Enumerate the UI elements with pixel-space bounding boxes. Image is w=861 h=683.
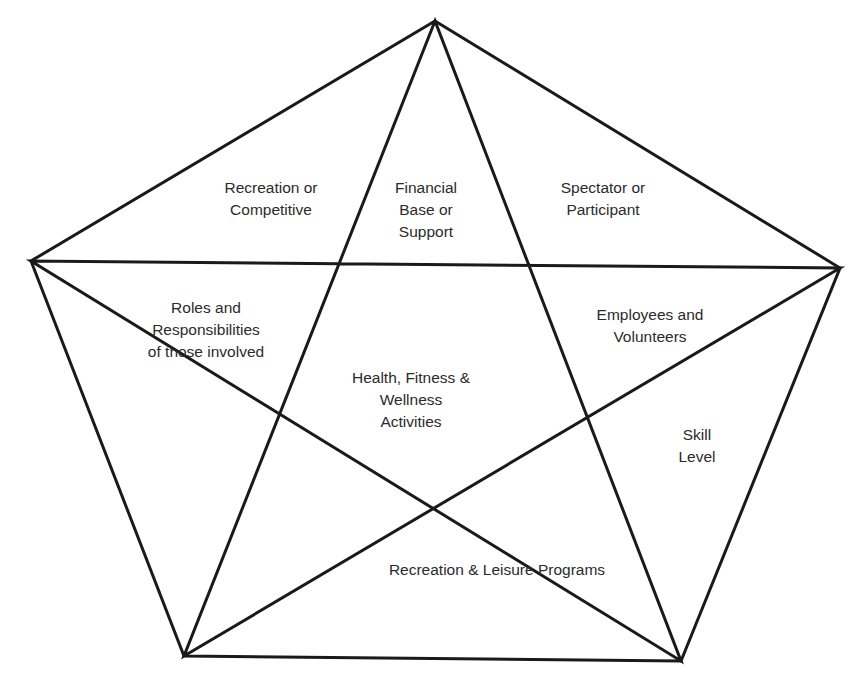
- label-recreation-or-competitive: Recreation orCompetitive: [224, 177, 317, 221]
- label-line: Volunteers: [597, 326, 704, 348]
- label-line: of those involved: [148, 341, 264, 363]
- label-employees-and-volunteers: Employees andVolunteers: [597, 304, 704, 348]
- label-line: Responsibilities: [148, 319, 264, 341]
- label-skill-level: SkillLevel: [678, 424, 715, 468]
- label-line: Participant: [561, 199, 645, 221]
- label-line: Roles and: [148, 297, 264, 319]
- label-health-fitness-wellness: Health, Fitness &WellnessActivities: [352, 367, 470, 433]
- label-line: Recreation & Leisure Programs: [389, 559, 605, 581]
- label-line: Support: [395, 221, 457, 243]
- label-roles-and-responsibilities: Roles andResponsibilitiesof those involv…: [148, 297, 264, 363]
- label-line: Wellness: [352, 389, 470, 411]
- label-line: Skill: [678, 424, 715, 446]
- label-spectator-or-participant: Spectator orParticipant: [561, 177, 645, 221]
- label-line: Spectator or: [561, 177, 645, 199]
- label-line: Activities: [352, 411, 470, 433]
- label-line: Financial: [395, 177, 457, 199]
- label-line: Level: [678, 446, 715, 468]
- label-line: Competitive: [224, 199, 317, 221]
- label-recreation-leisure-programs: Recreation & Leisure Programs: [389, 559, 605, 581]
- label-line: Recreation or: [224, 177, 317, 199]
- label-line: Base or: [395, 199, 457, 221]
- label-line: Health, Fitness &: [352, 367, 470, 389]
- label-line: Employees and: [597, 304, 704, 326]
- label-financial-base-or-support: FinancialBase orSupport: [395, 177, 457, 243]
